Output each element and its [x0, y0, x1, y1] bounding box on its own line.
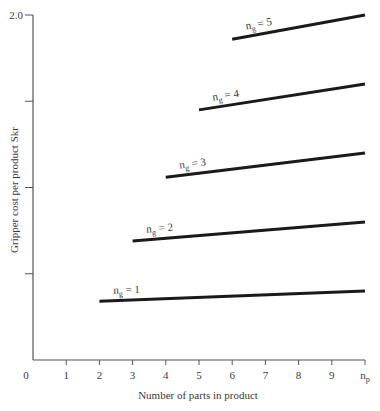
x-tick-label: 6 — [229, 369, 235, 381]
series-lines: ng = 1ng = 2ng = 3ng = 4ng = 5 — [99, 15, 365, 301]
chart: 2.00123456789np ng = 1ng = 2ng = 3ng = 4… — [0, 0, 380, 411]
x-tick-label: 5 — [196, 369, 202, 381]
series-label-ng-1: ng = 1 — [113, 283, 140, 299]
x-axis-label: Number of parts in product — [138, 389, 258, 401]
y-axis-label: Gripper cost per product Skr — [8, 127, 20, 253]
x-tick-label: 8 — [296, 369, 302, 381]
x-tick-label: 1 — [63, 369, 69, 381]
x-tick-label: 2 — [97, 369, 103, 381]
x-tick-label: 3 — [130, 369, 136, 381]
series-label-ng-2: ng = 2 — [146, 221, 174, 238]
x-tick-label: 4 — [163, 369, 169, 381]
x-tick-label: np — [360, 369, 370, 384]
x-tick-label: 0 — [23, 369, 29, 381]
series-label-ng-3: ng = 3 — [179, 155, 208, 173]
y-tick-label: 2.0 — [9, 9, 23, 21]
x-tick-label: 7 — [263, 369, 269, 381]
x-tick-label: 9 — [329, 369, 335, 381]
axes: 2.00123456789np — [9, 9, 370, 384]
